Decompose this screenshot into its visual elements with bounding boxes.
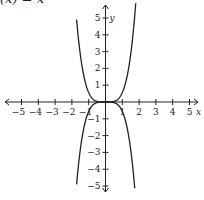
y-tick-label: −2 (87, 131, 100, 141)
y-tick-label: 3 (95, 47, 101, 57)
y-tick-label: −3 (87, 147, 101, 157)
x-axis-label: x (196, 107, 201, 117)
x-tick-label: 2 (136, 107, 142, 117)
y-tick-label: 1 (95, 80, 101, 90)
x-tick-label: 3 (153, 107, 159, 117)
y-axis-label: y (109, 13, 116, 23)
x-tick-label: 4 (170, 107, 176, 117)
x-tick-label: −4 (29, 107, 43, 117)
x-tick-label: −2 (62, 107, 75, 117)
y-tick-label: 2 (95, 63, 101, 73)
x-tick-label: −5 (12, 107, 26, 117)
x-tick-label: 5 (187, 107, 193, 117)
y-tick-label: 5 (95, 13, 101, 23)
y-tick-label: −4 (87, 164, 101, 174)
y-tick-label: 4 (95, 30, 101, 40)
y-tick-label: −5 (87, 181, 101, 191)
graph: −5−4−3−2−112345−5−4−3−2−112345xy (0, 0, 204, 200)
x-tick-label: −3 (45, 107, 59, 117)
y-tick-label: −1 (87, 114, 100, 124)
